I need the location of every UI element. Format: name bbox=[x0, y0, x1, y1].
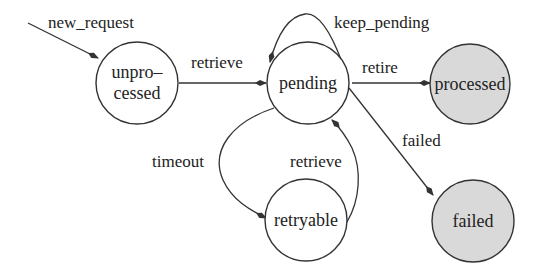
state-processed: processed bbox=[430, 44, 510, 124]
state-unprocessed: unpro– cessed bbox=[96, 42, 178, 124]
unprocessed-label-line1: unpro– bbox=[112, 62, 164, 82]
state-diagram: new_request retrieve keep_pending retire… bbox=[0, 0, 538, 280]
keep-pending-label: keep_pending bbox=[334, 13, 430, 32]
unprocessed-label-line2: cessed bbox=[114, 83, 161, 103]
retrieve-back-label: retrieve bbox=[290, 152, 342, 171]
transition-retrieve-unprocessed-pending: retrieve bbox=[179, 53, 266, 83]
timeout-label: timeout bbox=[152, 152, 204, 171]
state-retryable: retryable bbox=[265, 179, 347, 261]
failed-label: failed bbox=[402, 131, 441, 150]
pending-label: pending bbox=[279, 73, 337, 93]
retire-label: retire bbox=[362, 58, 398, 77]
transition-timeout: timeout bbox=[152, 108, 274, 218]
timeout-arrow bbox=[219, 108, 274, 218]
transition-failed: failed bbox=[349, 88, 441, 195]
failed-state-label: failed bbox=[453, 211, 494, 231]
state-failed: failed bbox=[432, 180, 514, 262]
new-request-label: new_request bbox=[48, 13, 134, 32]
retrieve-label: retrieve bbox=[191, 53, 243, 72]
state-pending: pending bbox=[267, 42, 349, 124]
transition-retire: retire bbox=[352, 58, 430, 83]
processed-label: processed bbox=[435, 74, 506, 94]
retryable-label: retryable bbox=[274, 210, 338, 230]
